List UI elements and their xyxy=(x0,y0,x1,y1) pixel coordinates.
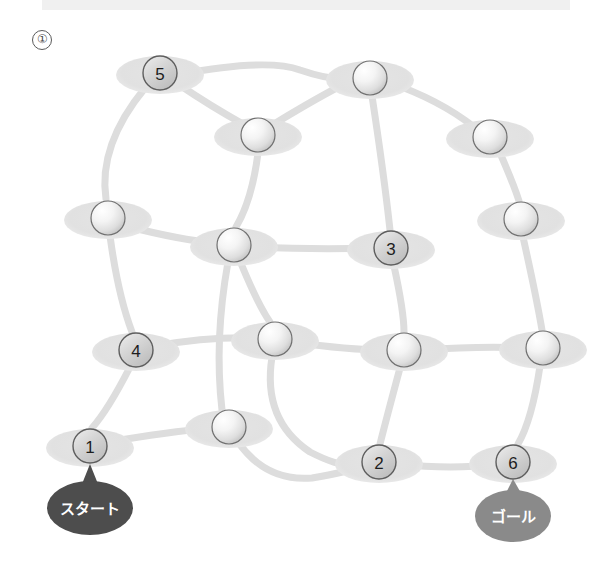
graph-edge xyxy=(380,368,400,444)
graph-edge xyxy=(518,366,540,444)
node-circle xyxy=(374,231,408,265)
graph-edge xyxy=(236,153,258,227)
network-graph: スタートゴール 534126 xyxy=(0,0,612,568)
node-circle xyxy=(119,333,153,367)
node-circle xyxy=(241,118,275,152)
graph-node-unlabeled[interactable] xyxy=(217,228,251,262)
endpoint-bubble xyxy=(47,481,133,535)
graph-node-unlabeled[interactable] xyxy=(353,61,387,95)
node-circle xyxy=(73,429,107,463)
endpoint-goal[interactable]: ゴール xyxy=(475,479,551,542)
graph-edge xyxy=(92,367,130,428)
graph-node-unlabeled[interactable] xyxy=(241,118,275,152)
graph-node-2[interactable]: 2 xyxy=(362,445,396,479)
graph-node-unlabeled[interactable] xyxy=(526,331,560,365)
node-circle xyxy=(143,56,177,90)
graph-node-6[interactable]: 6 xyxy=(496,445,530,479)
node-circle xyxy=(353,61,387,95)
graph-edge xyxy=(178,84,243,124)
graph-edge xyxy=(523,237,542,330)
node-circle xyxy=(212,410,246,444)
node-layer: 534126 xyxy=(73,56,560,479)
graph-node-5[interactable]: 5 xyxy=(143,56,177,90)
node-circle xyxy=(258,322,292,356)
graph-edge xyxy=(372,96,390,230)
graph-node-1[interactable]: 1 xyxy=(73,429,107,463)
graph-node-4[interactable]: 4 xyxy=(119,333,153,367)
diagram-page: ① スタートゴール 534126 xyxy=(0,0,612,568)
node-circle xyxy=(91,201,125,235)
graph-edge xyxy=(240,261,270,322)
endpoint-bubble xyxy=(475,490,551,542)
endpoint-start[interactable]: スタート xyxy=(47,464,133,535)
graph-node-unlabeled[interactable] xyxy=(91,201,125,235)
graph-node-unlabeled[interactable] xyxy=(387,333,421,367)
graph-edge xyxy=(270,357,361,466)
node-platform-layer xyxy=(46,56,587,483)
node-circle xyxy=(473,120,507,154)
graph-edge xyxy=(394,266,404,332)
graph-edge xyxy=(500,153,519,201)
graph-edge xyxy=(110,236,132,332)
node-circle xyxy=(504,202,538,236)
graph-node-unlabeled[interactable] xyxy=(212,410,246,444)
node-circle xyxy=(362,445,396,479)
node-circle xyxy=(217,228,251,262)
graph-node-unlabeled[interactable] xyxy=(504,202,538,236)
graph-node-unlabeled[interactable] xyxy=(258,322,292,356)
graph-node-unlabeled[interactable] xyxy=(473,120,507,154)
node-circle xyxy=(387,333,421,367)
graph-edge xyxy=(105,88,145,199)
node-circle xyxy=(526,331,560,365)
node-circle xyxy=(496,445,530,479)
graph-node-3[interactable]: 3 xyxy=(374,231,408,265)
